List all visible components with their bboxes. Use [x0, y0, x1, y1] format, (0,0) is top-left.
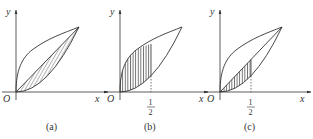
x-axis-label: x [198, 93, 204, 104]
panel-a: y O x (a) [2, 6, 108, 133]
svg-text:2: 2 [249, 108, 253, 117]
origin-label: O [3, 93, 10, 104]
panel-b: y O x 1 2 (b) [104, 6, 208, 133]
y-axis-label: y [5, 6, 11, 17]
origin-label: O [207, 93, 214, 104]
x-axis-label: x [94, 93, 100, 104]
tick-label-one-half: 1 2 [247, 98, 255, 117]
caption-b: (b) [144, 121, 156, 133]
svg-text:1: 1 [249, 98, 253, 107]
shaded-region [120, 44, 151, 92]
y-axis-label: y [109, 6, 115, 17]
tick-label-one-half: 1 2 [147, 98, 155, 117]
y-axis-label: y [209, 6, 215, 17]
svg-text:2: 2 [149, 108, 153, 117]
origin-label: O [107, 93, 114, 104]
panel-c: y O x 1 2 (c) [204, 6, 311, 133]
caption-a: (a) [46, 121, 57, 133]
figure-canvas: y O x (a) y O x 1 2 (b) y O [0, 0, 313, 139]
svg-text:1: 1 [149, 98, 153, 107]
line-y-equals-x [16, 27, 79, 92]
caption-c: (c) [244, 121, 255, 133]
x-axis-label: x [299, 93, 305, 104]
